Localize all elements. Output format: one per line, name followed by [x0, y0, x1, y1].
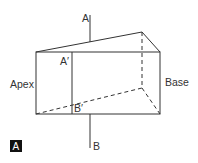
prism-front-face	[36, 52, 160, 114]
label-inner-top: A′	[60, 55, 69, 67]
prism-top-edge	[36, 32, 142, 52]
label-axis-top: A	[82, 12, 89, 24]
prism-hidden-right-bottom-edge	[142, 88, 160, 114]
panel-badge-label: A	[13, 141, 20, 152]
prism-diagram: A B A′ B′ Apex Base A	[0, 0, 198, 163]
prism-hidden-bottom-edge	[36, 88, 142, 114]
prism-right-top-edge	[142, 32, 160, 52]
label-inner-bottom: B′	[74, 102, 83, 114]
label-apex: Apex	[10, 78, 35, 90]
label-axis-bottom: B	[93, 140, 100, 152]
label-base: Base	[165, 76, 189, 88]
